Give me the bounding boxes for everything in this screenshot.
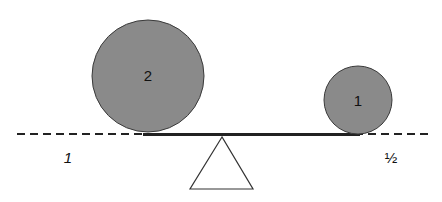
balance-diagram: 2 1 1 ½ [0, 0, 442, 202]
right-distance-label: ½ [385, 149, 398, 166]
fulcrum-triangle [190, 137, 253, 189]
left-distance-label: 1 [64, 149, 72, 166]
small-circle-label: 1 [354, 92, 362, 109]
large-circle-label: 2 [144, 67, 152, 84]
